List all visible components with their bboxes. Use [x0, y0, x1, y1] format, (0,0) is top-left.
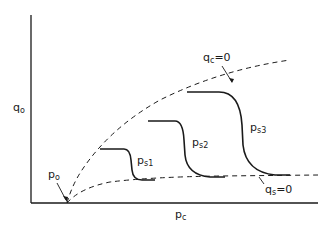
ps1-label: ps1 [137, 154, 153, 168]
ps3-label: ps3 [250, 121, 266, 135]
qs-zero-label: qs=0 [265, 183, 292, 197]
diagram-canvas: qo pc po qc=0 qs=0 ps1 ps2 ps3 [0, 0, 332, 233]
s-curve-ps2 [148, 121, 225, 177]
x-axis-label: pc [175, 208, 186, 222]
s-curve-ps3 [187, 92, 290, 175]
y-axis-label: qo [13, 101, 25, 115]
qs-label-pointer [259, 177, 264, 184]
qc-zero-label: qc=0 [203, 51, 231, 65]
origin-label: po [48, 168, 60, 182]
ps2-label: ps2 [192, 136, 208, 150]
arrow-icon [229, 78, 234, 83]
